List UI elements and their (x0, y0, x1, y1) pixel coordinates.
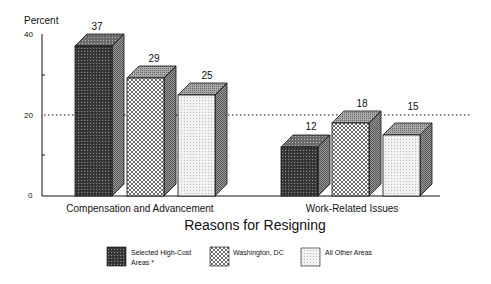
legend-label: All Other Areas (325, 249, 373, 256)
bar-high-cost-compensation: 37 (75, 21, 124, 196)
legend-item-high-cost: Selected High-Cost Areas * (107, 247, 191, 266)
legend-item-other: All Other Areas (301, 248, 373, 266)
category-label: Compensation and Advancement (66, 203, 214, 214)
bar-other-compensation: 25 (178, 70, 227, 196)
bar-chart: 40 20 0 Percent 37 29 25 Compensation an… (0, 0, 491, 284)
bar-value-label: 15 (407, 101, 419, 112)
bar-group-compensation: 37 29 25 Compensation and Advancement (66, 21, 227, 214)
legend: Selected High-Cost Areas * Washington, D… (107, 247, 373, 266)
bar-value-label: 12 (305, 121, 317, 132)
x-axis-title: Reasons for Resigning (184, 217, 326, 233)
legend-item-washington: Washington, DC (210, 247, 284, 266)
bar-value-label: 29 (148, 53, 160, 64)
bar-value-label: 25 (201, 70, 213, 81)
y-tick-label: 0 (28, 191, 33, 200)
category-label: Work-Related Issues (306, 203, 399, 214)
y-tick-label: 40 (24, 30, 33, 39)
y-axis-title: Percent (24, 15, 59, 26)
y-tick-label: 20 (24, 111, 33, 120)
bar-value-label: 37 (91, 21, 103, 32)
bar-washington-work: 18 (332, 98, 381, 196)
legend-label: Selected High-Cost (131, 249, 191, 257)
legend-label: Washington, DC (233, 249, 284, 257)
legend-label-line2: Areas * (131, 259, 154, 266)
bar-high-cost-work: 12 (281, 121, 330, 196)
bar-value-label: 18 (356, 98, 368, 109)
bar-washington-compensation: 29 (127, 53, 176, 196)
